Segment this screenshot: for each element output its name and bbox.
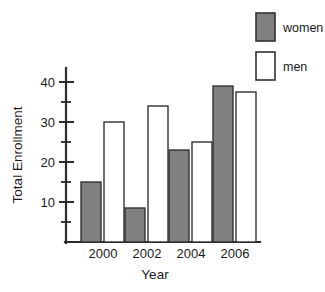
bar-women-2004 (169, 150, 189, 242)
y-tick-label-30: 30 (41, 115, 55, 130)
legend-swatch-men-icon (256, 52, 275, 80)
y-axis-title: Total Enrollment (10, 106, 25, 203)
bar-chart-figure: 40 30 20 10 2000 2002 (0, 0, 325, 292)
bar-women-2006 (213, 86, 233, 242)
chart-canvas: 40 30 20 10 2000 2002 (0, 0, 325, 292)
y-tick-label-40: 40 (41, 75, 55, 90)
x-tick-label-2002: 2002 (133, 246, 162, 261)
bar-men-2000 (104, 122, 124, 242)
legend-swatch-women-icon (256, 13, 275, 41)
y-tick-label-20: 20 (41, 155, 55, 170)
bar-men-2006 (236, 92, 256, 242)
x-tick-label-2000: 2000 (89, 246, 118, 261)
bar-men-2002 (148, 106, 168, 242)
bar-women-2002 (125, 208, 145, 242)
x-axis-title: Year (141, 267, 169, 282)
x-tick-label-2004: 2004 (177, 246, 206, 261)
legend-label-women: women (282, 21, 323, 35)
bar-women-2000 (81, 182, 101, 242)
y-tick-label-10: 10 (41, 195, 55, 210)
x-tick-label-2006: 2006 (221, 246, 250, 261)
bar-men-2004 (192, 142, 212, 242)
legend-label-men: men (283, 60, 307, 74)
